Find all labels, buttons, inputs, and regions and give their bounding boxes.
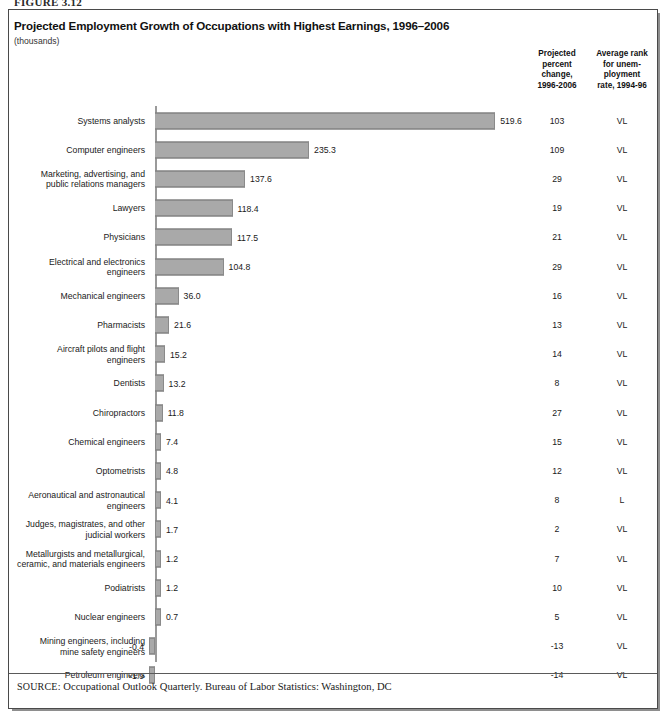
chart-row: Judges, magistrates, and otherjudicial w… — [0, 515, 672, 544]
bar-group: 137.6 — [155, 170, 272, 187]
row-label-occupation: Marketing, advertising, andpublic relati… — [0, 169, 145, 190]
chart-row: Optometrists4.812VL — [0, 456, 672, 485]
chart-row: Aeronautical and astronauticalengineers4… — [0, 486, 672, 515]
source-note: SOURCE: Occupational Outlook Quarterly. … — [17, 681, 392, 692]
cell-projected-percent-change: 29 — [528, 262, 586, 272]
row-label-occupation: Mechanical engineers — [0, 291, 145, 301]
bar-group: 11.8 — [155, 404, 184, 421]
chart-row: Metallurgists and metallurgical,ceramic,… — [0, 544, 672, 573]
bar-value-label: 21.6 — [174, 320, 191, 330]
bar — [155, 141, 309, 158]
bar-group: 4.1 — [155, 492, 178, 509]
bar-value-label: 7.4 — [166, 437, 178, 447]
chart-row: Chiropractors11.827VL — [0, 398, 672, 427]
bar-value-label: 118.4 — [238, 203, 259, 213]
cell-projected-percent-change: -13 — [528, 641, 586, 651]
chart-row: Mining engineers, includingmine safety e… — [0, 632, 672, 661]
bar-group: 13.2 — [155, 375, 186, 392]
bar-group: 1.7 — [155, 521, 178, 538]
chart-row: Nuclear engineers0.75VL — [0, 602, 672, 631]
chart-row: Dentists13.28VL — [0, 369, 672, 398]
cell-average-unemployment-rank: VL — [586, 583, 658, 593]
cell-average-unemployment-rank: VL — [586, 466, 658, 476]
chart-row: Mechanical engineers36.016VL — [0, 281, 672, 310]
cell-projected-percent-change: 8 — [528, 378, 586, 388]
bar-value-label: 4.1 — [166, 495, 178, 505]
row-label-occupation: Dentists — [0, 378, 145, 388]
cell-average-unemployment-rank: VL — [586, 612, 658, 622]
bar-value-label: 117.5 — [237, 232, 258, 242]
row-label-occupation: Petroleum engineers — [0, 670, 145, 680]
bar — [155, 550, 161, 567]
cell-projected-percent-change: 13 — [528, 320, 586, 330]
bar — [155, 521, 161, 538]
bar-group: 519.6 — [155, 112, 522, 129]
bar-value-label: 1.2 — [166, 583, 178, 593]
bar-group: -0.4 — [129, 638, 155, 655]
row-label-occupation: Systems analysts — [0, 115, 145, 125]
row-label-occupation: Electrical and electronicsengineers — [0, 256, 145, 277]
chart-row: Podiatrists1.210VL — [0, 573, 672, 602]
row-label-occupation: Pharmacists — [0, 320, 145, 330]
source-text: Occupational Outlook Quarterly. Bureau o… — [63, 681, 391, 692]
chart-row: Physicians117.521VL — [0, 223, 672, 252]
source-divider — [9, 673, 657, 674]
cell-average-unemployment-rank: VL — [586, 641, 658, 651]
cell-average-unemployment-rank: VL — [586, 408, 658, 418]
row-label-occupation: Lawyers — [0, 203, 145, 213]
bar — [155, 258, 224, 275]
row-label-occupation: Judges, magistrates, and otherjudicial w… — [0, 519, 145, 540]
page-title: Projected Employment Growth of Occupatio… — [14, 19, 449, 32]
cell-average-unemployment-rank: VL — [586, 349, 658, 359]
cell-projected-percent-change: 2 — [528, 524, 586, 534]
bar — [155, 229, 232, 246]
row-label-occupation: Chemical engineers — [0, 437, 145, 447]
bar-group: 1.2 — [155, 550, 178, 567]
bar-group: 118.4 — [155, 200, 259, 217]
chart-row: Computer engineers235.3109VL — [0, 135, 672, 164]
bar — [155, 433, 161, 450]
bar-group: 7.4 — [155, 433, 178, 450]
bar — [155, 404, 163, 421]
cell-average-unemployment-rank: VL — [586, 554, 658, 564]
cell-average-unemployment-rank: VL — [586, 291, 658, 301]
bar-value-label: 1.2 — [166, 554, 178, 564]
cell-projected-percent-change: -14 — [528, 670, 586, 680]
cell-average-unemployment-rank: VL — [586, 116, 658, 126]
bar — [155, 346, 165, 363]
row-label-occupation: Aeronautical and astronauticalengineers — [0, 490, 145, 511]
cell-projected-percent-change: 19 — [528, 203, 586, 213]
cell-average-unemployment-rank: VL — [586, 378, 658, 388]
bar — [155, 316, 169, 333]
cell-average-unemployment-rank: VL — [586, 262, 658, 272]
bar-value-label: -0.4 — [129, 641, 144, 651]
cell-projected-percent-change: 29 — [528, 174, 586, 184]
cell-projected-percent-change: 8 — [528, 495, 586, 505]
cell-projected-percent-change: 14 — [528, 349, 586, 359]
figure-number: FIGURE 3.12 — [14, 0, 82, 8]
source-label: SOURCE: — [17, 681, 61, 692]
bar-value-label: 0.7 — [166, 612, 178, 622]
row-label-occupation: Optometrists — [0, 466, 145, 476]
column-header-projected-percent-change: Projectedpercentchange,1996-2006 — [528, 49, 586, 91]
bar-group: 4.8 — [155, 462, 178, 479]
cell-average-unemployment-rank: VL — [586, 320, 658, 330]
bar-value-label: 1.7 — [166, 524, 178, 534]
row-label-occupation: Chiropractors — [0, 407, 145, 417]
bar-value-label: 235.3 — [314, 145, 336, 155]
bar — [155, 579, 161, 596]
row-label-occupation: Aircraft pilots and flightengineers — [0, 344, 145, 365]
chart-row: Electrical and electronicsengineers104.8… — [0, 252, 672, 281]
bar — [155, 608, 161, 625]
bar-value-label: 11.8 — [168, 408, 184, 418]
bar — [149, 638, 155, 655]
bar — [155, 112, 495, 129]
cell-projected-percent-change: 15 — [528, 437, 586, 447]
cell-average-unemployment-rank: VL — [586, 174, 658, 184]
row-label-occupation: Physicians — [0, 232, 145, 242]
column-header-average-unemployment-rank: Average rankfor unem-ploymentrate, 1994-… — [586, 49, 658, 91]
bar-value-label: 13.2 — [169, 378, 186, 388]
chart-units-subtitle: (thousands) — [14, 36, 59, 46]
bar — [155, 170, 245, 187]
bar-group: 235.3 — [155, 141, 336, 158]
